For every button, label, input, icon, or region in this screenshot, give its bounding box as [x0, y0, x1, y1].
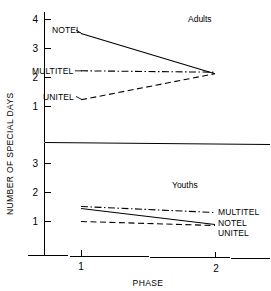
adults-series-unitel: [81, 74, 215, 100]
panel-adults: 4 3 2 1 Adults NOTEL MULTITEL UNITEL: [32, 12, 215, 142]
x-axis-title: PHASE: [133, 278, 164, 288]
youths-y-tick-label-3: 3: [32, 158, 38, 169]
panel-label-adults: Adults: [188, 14, 212, 24]
chart-canvas: NUMBER OF SPECIAL DAYS 4 3 2 1 Adults: [0, 0, 270, 291]
chart-figure: NUMBER OF SPECIAL DAYS 4 3 2 1 Adults: [0, 0, 270, 291]
youths-label-unitel: UNITEL: [218, 228, 249, 238]
youths-y-ticks: [45, 164, 51, 222]
adults-y-tick-label-3: 3: [32, 43, 38, 54]
youths-label-notel: NOTEL: [218, 218, 247, 228]
adults-label-multitel: MULTITEL: [32, 66, 73, 76]
adults-label-unitel: UNITEL: [43, 92, 74, 102]
youths-series-multitel: [81, 207, 215, 213]
youths-y-tick-label-1: 1: [32, 216, 38, 227]
x-tick-label-2: 2: [213, 263, 219, 274]
panel-label-youths: Youths: [172, 180, 198, 190]
x-axis-line: [28, 256, 270, 259]
panel-divider: [45, 143, 271, 145]
adults-leader-unitel: [76, 97, 82, 100]
adults-label-notel: NOTEL: [52, 25, 81, 35]
adults-series-multitel: [81, 71, 215, 72]
adults-y-tick-label-4: 4: [32, 14, 38, 25]
panel-youths: 3 2 1 Youths MULTITEL NOTEL UNITEL: [32, 143, 259, 256]
adults-series-notel: [81, 34, 215, 74]
youths-label-multitel: MULTITEL: [218, 207, 259, 217]
adults-y-tick-label-1: 1: [32, 101, 38, 112]
x-axis: 1 2 PHASE: [28, 250, 270, 288]
x-tick-label-1: 1: [78, 261, 84, 272]
youths-y-tick-label-2: 2: [32, 187, 38, 198]
y-axis-title: NUMBER OF SPECIAL DAYS: [5, 92, 15, 215]
